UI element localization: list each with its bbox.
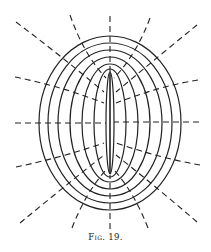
dashed-line-left-lower <box>16 143 104 167</box>
figure-caption: Fig. 19. <box>0 232 211 242</box>
dashed-line-top-left-2 <box>16 22 104 92</box>
dashed-line-right-lower <box>116 143 200 165</box>
figure-diagram <box>0 0 211 252</box>
